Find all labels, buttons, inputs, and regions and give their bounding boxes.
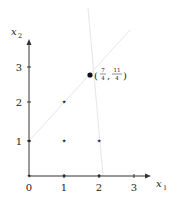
highlighted-point-marker	[87, 72, 92, 77]
x-tick-3: 3	[131, 182, 137, 193]
svg-text:7: 7	[101, 67, 105, 73]
constraint-line-2	[88, 8, 103, 176]
lattice-point-1-1: ⋆	[61, 135, 67, 146]
svg-text:11: 11	[114, 67, 121, 73]
x-tick-1: 1	[61, 182, 67, 193]
svg-text:x: x	[11, 26, 17, 37]
lattice-point-2-1: ⋆	[96, 135, 102, 146]
y-axis-label: x 2	[11, 26, 22, 40]
svg-text:): )	[123, 70, 127, 81]
constraint-line-1	[29, 30, 130, 141]
x-axis-arrow-icon	[145, 174, 151, 179]
y-tick-1: 1	[16, 136, 22, 147]
lattice-points: ⋆ ⋆ ⋆	[61, 96, 102, 146]
svg-text:⋆: ⋆	[26, 170, 32, 181]
svg-text:4: 4	[101, 75, 105, 81]
x-tick-2: 2	[96, 182, 102, 193]
svg-text:⋆: ⋆	[26, 135, 32, 146]
lattice-diagram: ⋆ ⋆ ⋆ ⋆ 0 1 2 3 1 2 3 x 1 x 2 ⋆ ⋆ ⋆ ( 7 …	[0, 0, 178, 199]
svg-text:(: (	[94, 70, 98, 81]
x-tick-0: 0	[26, 182, 32, 193]
x-axis-label: x 1	[156, 178, 167, 192]
highlighted-point-label: ( 7 4 , 11 4 )	[94, 67, 127, 81]
svg-text:4: 4	[115, 75, 119, 81]
y-tick-3: 3	[16, 62, 22, 73]
svg-text:,: ,	[107, 70, 110, 81]
svg-text:1: 1	[163, 184, 167, 192]
svg-text:⋆: ⋆	[61, 170, 67, 181]
y-axis-arrow-icon	[27, 39, 32, 45]
svg-text:2: 2	[18, 32, 22, 40]
lattice-point-1-2: ⋆	[61, 96, 67, 107]
svg-text:x: x	[156, 178, 162, 189]
svg-text:⋆: ⋆	[96, 170, 102, 181]
y-tick-2: 2	[16, 97, 22, 108]
